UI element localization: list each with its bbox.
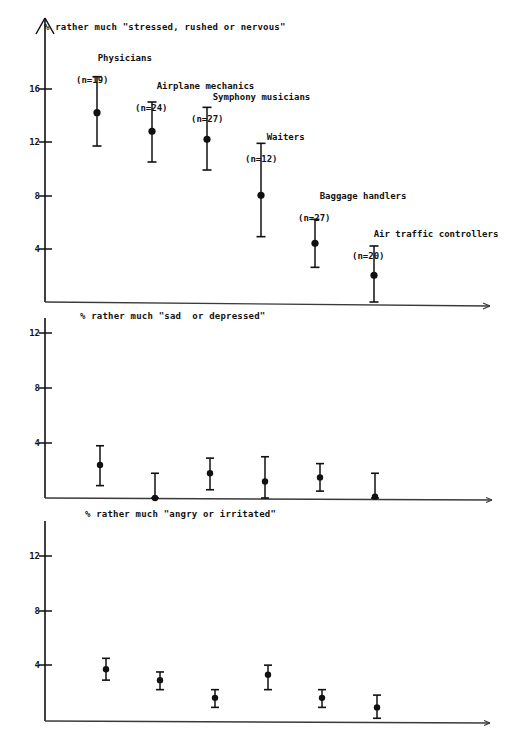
datapoint-group-p3-1: [102, 658, 110, 680]
datapoint-marker: [97, 462, 103, 468]
datapoint-group-p1-4: [257, 143, 266, 236]
datapoint-group-p3-4: [264, 665, 272, 690]
datapoint-marker: [157, 677, 163, 683]
datapoint-group-p2-6: [371, 473, 379, 500]
datapoint-marker: [311, 240, 318, 247]
datapoint-group-p1-3: [203, 107, 212, 170]
datapoint-group-p1-2: [148, 102, 157, 162]
x-axis-line-p3: [45, 721, 490, 723]
datapoint-marker: [317, 474, 323, 480]
datapoint-group-p2-1: [96, 446, 104, 486]
datapoint-marker: [262, 478, 268, 484]
datapoint-group-p3-6: [373, 695, 381, 718]
datapoint-marker: [152, 495, 158, 501]
datapoint-group-p1-6: [370, 246, 379, 302]
datapoint-marker: [212, 695, 218, 701]
x-axis-line-p1: [45, 302, 490, 306]
datapoint-marker: [319, 695, 325, 701]
datapoint-marker: [374, 704, 380, 710]
datapoint-marker: [148, 128, 155, 135]
datapoint-marker: [93, 109, 100, 116]
datapoint-group-p3-3: [211, 690, 219, 708]
datapoint-group-p2-5: [316, 464, 324, 492]
datapoint-marker: [207, 470, 213, 476]
datapoint-group-p3-2: [156, 672, 164, 690]
datapoint-group-p2-3: [206, 458, 214, 490]
datapoint-marker: [370, 272, 377, 279]
chart-canvas: [0, 0, 506, 749]
datapoint-group-p2-4: [261, 457, 269, 498]
datapoint-marker: [203, 136, 210, 143]
datapoint-group-p2-2: [151, 473, 159, 501]
datapoint-group-p3-5: [318, 690, 326, 708]
datapoint-group-p1-1: [93, 77, 102, 146]
datapoint-group-p1-5: [311, 219, 320, 267]
datapoint-marker: [265, 671, 271, 677]
figure-root: % rather much "stressed, rushed or nervo…: [0, 0, 506, 749]
datapoint-marker: [103, 666, 109, 672]
datapoint-marker: [257, 192, 264, 199]
datapoint-marker: [372, 493, 378, 499]
